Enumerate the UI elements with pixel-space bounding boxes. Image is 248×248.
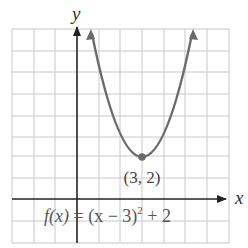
graph-canvas: (3, 2) x y f(x) = (x − 3)2 + 2 [0,0,248,248]
vertex-point [138,153,146,161]
vertex-label: (3, 2) [124,168,161,187]
y-axis-label: y [70,3,81,24]
curve-arrow-right-icon [189,29,198,40]
function-name: f(x) [44,206,69,227]
curve-arrow-left-icon [86,29,95,40]
function-body: = (x − 3) [69,206,137,227]
function-label: f(x) = (x − 3)2 + 2 [44,204,171,227]
function-constant: + 2 [143,206,171,226]
x-axis-label: x [234,187,244,208]
